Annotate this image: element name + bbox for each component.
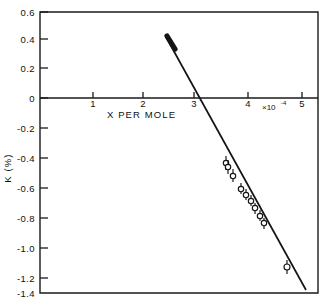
x-axis-title: X PER MOLE xyxy=(107,109,176,120)
y-tick-label: 0.4 xyxy=(21,34,35,45)
y-tick-label: 0.6 xyxy=(21,7,35,18)
y-tick-label: -0.6 xyxy=(17,183,35,194)
fit-line-group xyxy=(166,36,306,290)
x-tick-label: 5 xyxy=(299,98,305,109)
y-tick-label: -1.4 xyxy=(17,288,35,299)
y-tick-label: -0.2 xyxy=(17,123,35,134)
fit-line xyxy=(166,37,306,290)
x-tick-label: 4 xyxy=(245,98,251,109)
data-point xyxy=(230,169,235,182)
y-tick-label: -0.8 xyxy=(17,213,35,224)
data-point xyxy=(284,260,290,274)
data-point xyxy=(238,183,243,194)
x-tick-label: 3 xyxy=(191,98,197,109)
y-axis-title: K (%) xyxy=(2,153,13,182)
y-axis-ticks xyxy=(40,12,48,278)
x-axis-exponent-annotation: ×10 -4 xyxy=(262,100,287,112)
y-tick-label: 0 xyxy=(29,93,35,104)
data-point xyxy=(252,203,257,214)
x-axis-exponent-power: -4 xyxy=(281,100,287,106)
fit-line-terminus xyxy=(167,36,175,49)
chart-figure: 0.6 0.4 0.2 0 -0.2 -0.4 -0.6 -0.8 -1.0 -… xyxy=(0,0,329,302)
y-tick-label: -1.2 xyxy=(17,273,35,284)
data-point xyxy=(243,189,248,200)
y-tick-label: 0.2 xyxy=(21,63,35,74)
x-axis-exponent-base: ×10 xyxy=(262,103,276,112)
data-point xyxy=(261,218,266,229)
x-tick-label: 2 xyxy=(140,98,146,109)
x-tick-label: 1 xyxy=(90,98,96,109)
y-axis-tick-labels: 0.6 0.4 0.2 0 -0.2 -0.4 -0.6 -0.8 -1.0 -… xyxy=(17,7,35,299)
data-points-group xyxy=(223,156,290,274)
plot-frame xyxy=(40,12,318,293)
scatter-plot-svg: 0.6 0.4 0.2 0 -0.2 -0.4 -0.6 -0.8 -1.0 -… xyxy=(0,0,329,302)
y-tick-label: -0.4 xyxy=(17,153,35,164)
y-tick-label: -1.0 xyxy=(17,243,35,254)
data-point xyxy=(248,195,253,206)
